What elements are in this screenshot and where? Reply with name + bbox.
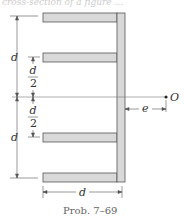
dim-half-bottom-den: 2 xyxy=(30,117,37,130)
dim-width-d: d xyxy=(79,186,86,199)
flange-upper-middle xyxy=(43,53,117,62)
point-o-marker xyxy=(164,95,167,98)
dim-d-upper: d xyxy=(11,51,18,64)
dim-half-top-num: d xyxy=(30,64,37,77)
flange-lower-middle xyxy=(43,133,117,142)
dim-d-lower: d xyxy=(11,131,18,144)
flange-top xyxy=(43,13,117,22)
dim-e: e xyxy=(142,102,149,115)
clipped-header-text: cross-section of a figure ... xyxy=(2,0,123,7)
web xyxy=(117,13,125,182)
figure-caption: Prob. 7–69 xyxy=(63,205,117,216)
dim-half-bottom-num: d xyxy=(30,104,37,117)
flange-bottom xyxy=(43,173,117,182)
dim-half-top-den: 2 xyxy=(30,77,37,90)
channel-section-diagram: cross-section of a figure ... O d d d 2 … xyxy=(0,0,184,220)
point-o-label: O xyxy=(170,91,179,104)
